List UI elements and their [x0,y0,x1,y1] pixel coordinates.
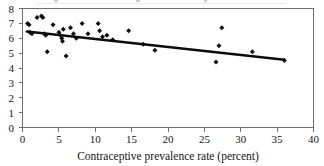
data-point [216,43,221,48]
data-point [126,28,131,33]
data-point [68,25,73,30]
scan-artifact-top-edge [36,0,286,5]
x-axis-title: Contraceptive prevalence rate (percent) [77,150,259,163]
x-tick-label: 0 [20,133,26,145]
plot-frame [23,9,314,128]
data-point [97,28,102,33]
y-axis-tick-labels: 8 7 6 5 4 3 2 1 0 [9,3,15,134]
x-tick-label: 25 [199,133,211,145]
data-point [85,31,90,36]
y-tick-label: 0 [9,122,15,134]
data-point [64,54,69,59]
x-tick-label: 40 [308,133,320,145]
data-point [96,21,101,26]
y-tick-label: 3 [9,77,15,89]
y-axis-ticks [19,9,23,128]
x-tick-label: 30 [235,133,247,145]
y-tick-label: 4 [9,62,15,74]
y-tick-label: 6 [9,32,15,44]
scatter-chart-figure: 8 7 6 5 4 3 2 1 0 0 5 10 15 20 25 30 35 … [0,0,324,166]
data-point [35,15,40,20]
data-point [219,25,224,30]
data-point [51,22,56,27]
y-tick-label: 2 [9,92,15,104]
data-point [61,27,66,32]
data-point [80,21,85,26]
data-point [45,49,50,54]
data-point [214,60,219,65]
y-tick-label: 5 [9,47,15,59]
y-tick-label: 1 [9,107,15,119]
x-tick-label: 20 [163,133,175,145]
data-point [104,33,109,38]
x-axis-ticks [23,128,314,132]
x-tick-label: 10 [90,133,102,145]
x-tick-label: 35 [272,133,284,145]
y-tick-label: 8 [9,3,15,15]
x-axis-tick-labels: 0 5 10 15 20 25 30 35 40 [20,133,320,145]
x-tick-label: 5 [56,133,62,145]
x-tick-label: 15 [126,133,138,145]
data-point [152,48,157,53]
chart-canvas: 8 7 6 5 4 3 2 1 0 0 5 10 15 20 25 30 35 … [0,0,324,166]
y-tick-label: 7 [9,17,15,29]
data-point [250,49,255,54]
